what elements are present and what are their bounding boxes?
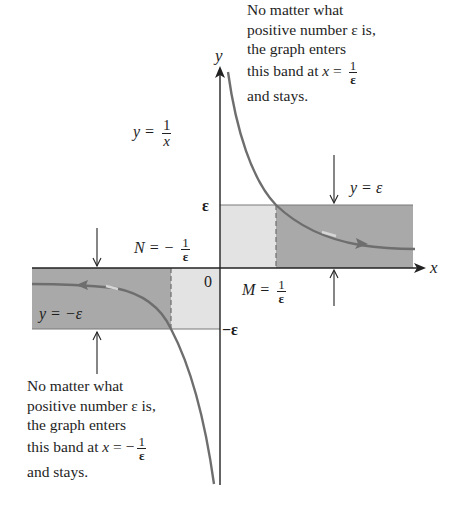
curve-eq-fraction: 1 x — [162, 118, 172, 149]
annotation-left-line2: positive number ε is, — [27, 396, 156, 416]
n-label: N = − 1 ε — [134, 236, 190, 263]
m-fraction: 1 ε — [277, 278, 286, 305]
annotation-right: No matter what positive number ε is, the… — [247, 0, 376, 105]
m-label: M = 1 ε — [242, 278, 286, 305]
upper-band-label: y = ε — [350, 178, 382, 197]
annotation-left: No matter what positive number ε is, the… — [27, 376, 156, 481]
annotation-left-line1: No matter what — [27, 376, 156, 396]
left-band-light — [171, 268, 220, 329]
lower-band-label: y = −ε — [39, 304, 82, 323]
right-band-light — [220, 205, 276, 268]
curve-eq-lhs: y = — [133, 123, 155, 140]
annotation-right-line3: the graph enters — [247, 39, 376, 59]
annotation-left-fraction: 1ε — [137, 435, 146, 462]
x-axis-label: x — [430, 258, 438, 277]
annotation-left-line5: and stays. — [27, 462, 156, 482]
curve-equation-label: y = 1 x — [133, 118, 171, 149]
epsilon-tick-label: ε — [202, 196, 209, 215]
annotation-right-line4: this band at x = 1ε — [247, 59, 376, 86]
annotation-right-line2: positive number ε is, — [247, 20, 376, 40]
n-fraction: 1 ε — [181, 236, 190, 263]
annotation-left-line3: the graph enters — [27, 415, 156, 435]
annotation-right-line5: and stays. — [247, 86, 376, 106]
annotation-right-line1: No matter what — [247, 0, 376, 20]
right-band-dark — [276, 205, 413, 268]
origin-label: 0 — [204, 272, 212, 291]
annotation-left-line4: this band at x = −1ε — [27, 435, 156, 462]
neg-epsilon-tick-label: −ε — [222, 320, 238, 339]
y-axis-label: y — [215, 46, 223, 65]
annotation-right-fraction: 1ε — [349, 59, 358, 86]
